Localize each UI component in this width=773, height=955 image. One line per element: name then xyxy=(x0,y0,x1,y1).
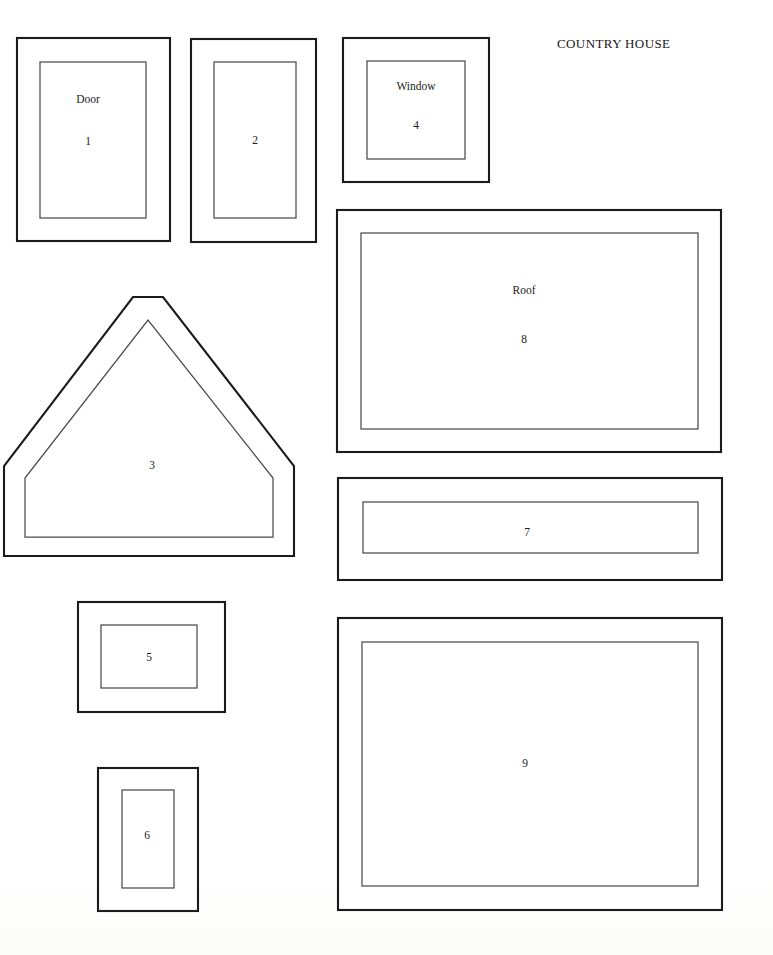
pattern-piece-8[interactable] xyxy=(333,206,725,456)
piece-outer-outline xyxy=(337,210,721,452)
piece-outer-outline xyxy=(338,478,722,580)
piece-outer-outline xyxy=(343,38,489,182)
pattern-piece-1[interactable] xyxy=(13,34,174,245)
page-title: COUNTRY HOUSE xyxy=(557,36,670,52)
piece-outer-outline xyxy=(78,602,225,712)
pattern-sheet: COUNTRY HOUSE Door123Window4567Roof89 xyxy=(0,0,773,955)
piece-outer-outline xyxy=(338,618,722,910)
pattern-piece-5[interactable] xyxy=(74,598,229,716)
pattern-piece-3[interactable] xyxy=(0,290,300,562)
pattern-piece-9[interactable] xyxy=(334,614,726,914)
pattern-piece-6[interactable] xyxy=(94,764,202,915)
pattern-piece-2[interactable] xyxy=(187,35,320,246)
pattern-piece-4[interactable] xyxy=(339,34,493,186)
pattern-piece-7[interactable] xyxy=(334,474,726,584)
piece-outer-outline xyxy=(191,39,316,242)
piece-outer-outline xyxy=(4,297,294,556)
